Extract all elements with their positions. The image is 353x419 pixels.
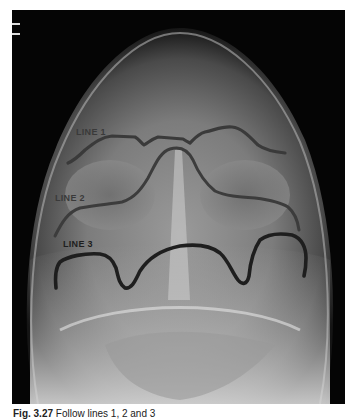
- caption-text: Follow lines 1, 2 and 3: [56, 408, 156, 419]
- line-2-label: LINE 2: [55, 193, 85, 203]
- xray-image: [12, 10, 345, 404]
- edge-mark: [12, 33, 20, 35]
- xray-figure: LINE 1 LINE 2 LINE 3: [12, 10, 345, 404]
- figure-caption: Fig. 3.27 Follow lines 1, 2 and 3: [13, 408, 155, 419]
- line-1-label: LINE 1: [76, 127, 106, 137]
- line-3-label: LINE 3: [63, 239, 93, 249]
- edge-mark: [12, 23, 20, 25]
- caption-number: Fig. 3.27: [13, 408, 53, 419]
